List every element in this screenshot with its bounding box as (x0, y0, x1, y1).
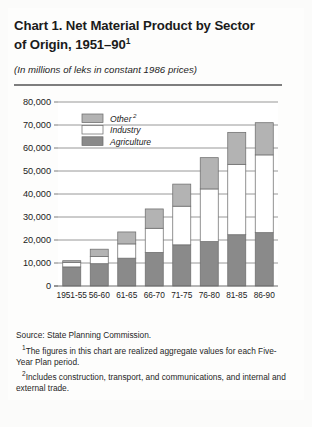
xtick-label-61-65: 61-65 (116, 290, 138, 300)
xtick-label-76-80: 76-80 (199, 290, 221, 300)
legend-footnote-marker: 2 (132, 112, 137, 119)
footnote-2-text: Includes construction, transport, and co… (16, 372, 286, 393)
chart-title-line1: Chart 1. Net Material Product by Sector (14, 18, 255, 33)
footnote-1: 1The figures in this chart are realized … (16, 342, 288, 368)
chart-plot-area: 010,00020,00030,00040,00050,00060,00070,… (14, 96, 284, 318)
ytick-label-10000: 10,000 (23, 258, 51, 268)
chart-title: Chart 1. Net Material Product by Sector … (14, 18, 280, 52)
ytick-label-20000: 20,000 (23, 235, 51, 245)
bar-segment-61-65-other[interactable] (118, 232, 136, 244)
bar-segment-71-75-other[interactable] (173, 184, 191, 206)
bar-segment-56-60-agriculture[interactable] (90, 264, 108, 286)
bar-segment-66-70-agriculture[interactable] (145, 252, 163, 286)
ytick-label-70000: 70,000 (23, 120, 51, 130)
chart-subtitle: (In millions of leks in constant 1986 pr… (14, 64, 280, 75)
legend-swatch-agriculture (82, 137, 103, 146)
bar-group-56-60[interactable] (90, 249, 108, 286)
ytick-label-60000: 60,000 (23, 143, 51, 153)
chart-title-footnote-marker: 1 (126, 36, 131, 46)
xtick-label-66-70: 66-70 (144, 290, 166, 300)
bar-segment-56-60-other[interactable] (90, 249, 108, 256)
bar-segment-66-70-other[interactable] (145, 209, 163, 228)
bar-segment-86-90-agriculture[interactable] (255, 233, 273, 286)
bar-segment-71-75-industry[interactable] (173, 206, 191, 245)
bar-group-61-65[interactable] (118, 232, 136, 286)
ytick-label-50000: 50,000 (23, 166, 51, 176)
bar-segment-81-85-other[interactable] (228, 132, 246, 164)
footnote-2: 2Includes construction, transport, and c… (16, 368, 288, 394)
xtick-label-86-90: 86-90 (254, 290, 276, 300)
xtick-label-71-75: 71-75 (171, 290, 193, 300)
bar-segment-61-65-industry[interactable] (118, 244, 136, 258)
ytick-label-30000: 30,000 (23, 212, 51, 222)
legend-swatch-other (82, 114, 103, 123)
bar-group-1951-55[interactable] (63, 261, 81, 286)
bar-segment-76-80-agriculture[interactable] (200, 242, 218, 286)
chart-svg: 010,00020,00030,00040,00050,00060,00070,… (14, 96, 284, 318)
ytick-label-80000: 80,000 (23, 97, 51, 107)
bar-segment-81-85-industry[interactable] (228, 164, 246, 234)
bar-segment-1951-55-agriculture[interactable] (63, 267, 81, 286)
footnote-1-text: The figures in this chart are realized a… (16, 345, 277, 366)
bar-segment-56-60-industry[interactable] (90, 257, 108, 264)
bar-segment-61-65-agriculture[interactable] (118, 258, 136, 286)
bar-group-66-70[interactable] (145, 209, 163, 286)
bar-segment-76-80-other[interactable] (200, 158, 218, 189)
xtick-label-56-60: 56-60 (89, 290, 111, 300)
bar-segment-81-85-agriculture[interactable] (228, 235, 246, 286)
source-note: Source: State Planning Commission. (16, 330, 288, 341)
legend-swatch-industry (82, 125, 103, 134)
chart-figure: Chart 1. Net Material Product by Sector … (0, 0, 312, 427)
legend-label-agriculture: Agriculture (109, 137, 151, 147)
chart-title-line2: of Origin, 1951–90 (14, 37, 126, 52)
xtick-label-81-85: 81-85 (226, 290, 248, 300)
bar-segment-66-70-industry[interactable] (145, 228, 163, 252)
chart-notes: Source: State Planning Commission. 1The … (16, 330, 288, 394)
bar-group-81-85[interactable] (228, 132, 246, 286)
bar-segment-76-80-industry[interactable] (200, 189, 218, 242)
bar-group-71-75[interactable] (173, 184, 191, 286)
legend-label-industry: Industry (110, 125, 141, 135)
bar-segment-1951-55-industry[interactable] (63, 262, 81, 267)
bar-group-86-90[interactable] (255, 123, 273, 286)
ytick-label-0: 0 (46, 281, 51, 291)
bar-segment-71-75-agriculture[interactable] (173, 245, 191, 286)
bar-segment-86-90-industry[interactable] (255, 155, 273, 233)
xtick-label-1951-55: 1951-55 (57, 290, 88, 300)
bar-segment-1951-55-other[interactable] (63, 261, 81, 263)
ytick-label-40000: 40,000 (23, 189, 51, 199)
bar-segment-86-90-other[interactable] (255, 123, 273, 155)
bar-group-76-80[interactable] (200, 158, 218, 286)
title-divider (14, 84, 282, 86)
